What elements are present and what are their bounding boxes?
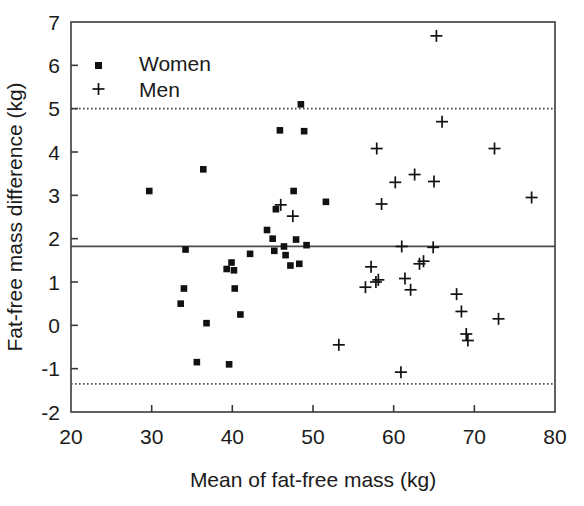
data-point-men — [409, 169, 421, 181]
data-point-women — [194, 359, 201, 366]
data-point-women — [287, 262, 294, 269]
data-point-men — [399, 273, 411, 285]
y-axis-ticks — [71, 65, 78, 368]
data-point-women — [181, 285, 188, 292]
data-point-women — [247, 251, 254, 258]
y-tick-label--2: -2 — [41, 401, 60, 424]
data-point-women — [281, 243, 288, 250]
x-axis-title: Mean of fat-free mass (kg) — [190, 468, 436, 491]
data-point-women — [323, 199, 330, 206]
data-point-men — [460, 328, 472, 340]
x-tick-label-50: 50 — [301, 425, 324, 448]
data-point-women — [146, 188, 153, 195]
y-axis-title: Fat-free mass difference (kg) — [3, 82, 26, 351]
data-point-men — [455, 305, 467, 317]
data-point-women — [182, 246, 189, 253]
scatter-chart-figure: 20304050607080 -2-101234567 Women Men Me… — [0, 0, 584, 506]
y-tick-label--1: -1 — [41, 357, 60, 380]
data-point-women — [293, 236, 300, 243]
data-point-men — [462, 335, 474, 347]
y-axis-tick-labels: -2-101234567 — [41, 11, 60, 424]
data-point-women — [282, 252, 289, 259]
data-point-men — [376, 198, 388, 210]
data-point-men — [451, 288, 463, 300]
legend-label-women: Women — [139, 52, 211, 75]
y-tick-label-0: 0 — [48, 314, 60, 337]
data-point-women — [298, 101, 305, 108]
y-tick-label-2: 2 — [48, 227, 60, 250]
data-point-men — [371, 143, 383, 155]
data-point-men — [395, 366, 407, 378]
x-tick-label-30: 30 — [140, 425, 163, 448]
data-point-men — [493, 313, 505, 325]
data-point-women — [237, 311, 244, 318]
y-tick-label-7: 7 — [48, 11, 60, 34]
data-point-women — [269, 235, 276, 242]
legend-marker-men — [93, 83, 105, 95]
legend-marker-women — [95, 62, 102, 69]
y-tick-label-6: 6 — [48, 54, 60, 77]
data-point-men — [287, 210, 299, 222]
x-tick-label-80: 80 — [543, 425, 566, 448]
reference-lines-group — [71, 109, 555, 384]
data-point-women — [290, 188, 297, 195]
data-point-men — [428, 175, 440, 187]
data-point-women — [223, 266, 230, 273]
x-axis-ticks — [152, 405, 475, 412]
data-point-women — [200, 166, 207, 173]
data-point-men — [359, 281, 371, 293]
chart-svg: 20304050607080 -2-101234567 Women Men Me… — [0, 0, 584, 506]
data-point-women — [264, 227, 271, 234]
data-point-women — [303, 242, 310, 249]
chart-legend: Women Men — [93, 52, 211, 101]
legend-label-men: Men — [139, 78, 180, 101]
data-point-women — [228, 259, 235, 266]
data-point-women — [277, 127, 284, 134]
data-point-men — [430, 30, 442, 42]
x-tick-label-60: 60 — [382, 425, 405, 448]
data-point-men — [333, 339, 345, 351]
data-point-women — [203, 320, 210, 327]
y-tick-label-4: 4 — [48, 141, 60, 164]
x-tick-label-40: 40 — [221, 425, 244, 448]
data-point-women — [296, 261, 303, 268]
data-point-women — [301, 128, 308, 135]
data-point-men — [489, 143, 501, 155]
data-point-women — [231, 285, 238, 292]
data-point-men — [365, 261, 377, 273]
data-point-men — [427, 241, 439, 253]
y-tick-label-3: 3 — [48, 184, 60, 207]
y-tick-label-1: 1 — [48, 271, 60, 294]
series-women-points — [146, 101, 329, 368]
data-point-women — [177, 300, 184, 307]
data-point-men — [405, 284, 417, 296]
x-tick-label-70: 70 — [463, 425, 486, 448]
data-point-men — [436, 116, 448, 128]
data-point-men — [370, 276, 382, 288]
data-point-men — [372, 274, 384, 286]
y-tick-label-5: 5 — [48, 97, 60, 120]
x-tick-label-20: 20 — [59, 425, 82, 448]
data-point-men — [396, 240, 408, 252]
x-axis-tick-labels: 20304050607080 — [59, 425, 566, 448]
data-point-women — [273, 206, 280, 213]
data-point-women — [271, 248, 278, 255]
data-point-men — [526, 192, 538, 204]
series-men-points — [275, 30, 538, 378]
data-point-men — [389, 176, 401, 188]
data-point-women — [231, 267, 238, 274]
data-point-women — [226, 361, 233, 368]
